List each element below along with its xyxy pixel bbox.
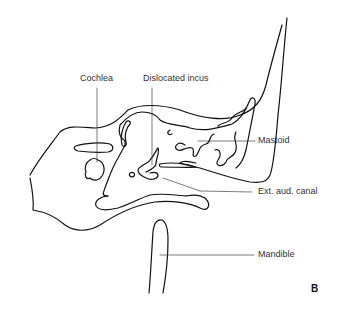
canal-inner-bar	[159, 163, 196, 167]
panel-label: B	[311, 283, 318, 294]
bone-lower-outline	[30, 178, 209, 230]
leader-canal-2	[200, 191, 252, 192]
semicircular-canal	[121, 121, 130, 146]
label-ext-aud-canal: Ext. aud. canal	[258, 187, 318, 196]
mandible-shape	[149, 220, 168, 293]
leader-canal	[163, 178, 200, 191]
label-mastoid: Mastoid	[258, 136, 290, 145]
cochlea-bar	[74, 143, 113, 152]
cochlea-shape	[85, 159, 104, 181]
label-mandible: Mandible	[258, 250, 295, 259]
canal-posterior-wall	[180, 18, 287, 182]
label-dislocated-incus: Dislocated incus	[143, 74, 209, 83]
temporal-bone-outline	[30, 25, 282, 175]
label-cochlea: Cochlea	[80, 74, 113, 83]
ear-anatomy-drawing	[0, 0, 339, 317]
incus-shape	[138, 148, 159, 179]
